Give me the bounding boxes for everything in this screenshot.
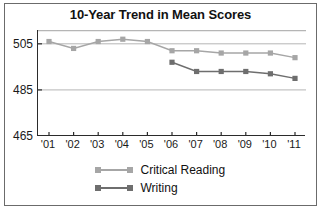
data-point-critical-reading xyxy=(46,39,51,44)
x-tick-label-11: '11 xyxy=(287,138,301,150)
x-tick-label-09: '09 xyxy=(238,138,252,150)
data-point-writing xyxy=(268,71,273,76)
x-tick-label-04: '04 xyxy=(115,138,129,150)
legend-item-writing: Writing xyxy=(95,181,227,195)
x-tick-label-03: '03 xyxy=(90,138,104,150)
data-point-writing xyxy=(169,60,174,65)
y-axis-tick-labels: 465485505 xyxy=(0,30,33,136)
x-tick-label-10: '10 xyxy=(262,138,276,150)
data-point-writing xyxy=(243,69,248,74)
y-tick-label-465: 465 xyxy=(13,129,33,143)
x-axis-tick-labels: '01'02'03'04'05'06'07'08'09'10'11 xyxy=(37,138,305,154)
data-point-critical-reading xyxy=(268,50,273,55)
y-tick-label-505: 505 xyxy=(13,37,33,51)
data-point-writing xyxy=(194,69,199,74)
data-point-critical-reading xyxy=(169,48,174,53)
data-point-critical-reading xyxy=(120,37,125,42)
data-point-critical-reading xyxy=(243,50,248,55)
data-point-critical-reading xyxy=(219,50,224,55)
legend-swatch-writing xyxy=(95,183,133,193)
data-point-critical-reading xyxy=(194,48,199,53)
y-tick-label-485: 485 xyxy=(13,83,33,97)
x-tick-label-06: '06 xyxy=(164,138,178,150)
x-tick-label-02: '02 xyxy=(65,138,79,150)
legend-swatch-critical-reading xyxy=(95,165,133,175)
x-tick-label-08: '08 xyxy=(213,138,227,150)
data-point-writing xyxy=(219,69,224,74)
legend-item-critical-reading: Critical Reading xyxy=(95,163,227,177)
x-tick-label-05: '05 xyxy=(139,138,153,150)
chart-title: 10-Year Trend in Mean Scores xyxy=(0,7,321,22)
plot-area xyxy=(37,30,305,136)
chart-legend: Critical Reading Writing xyxy=(0,163,321,195)
series-line-writing xyxy=(172,62,295,78)
data-point-writing xyxy=(292,76,297,81)
data-point-critical-reading xyxy=(145,39,150,44)
x-tick-label-01: '01 xyxy=(41,138,55,150)
data-point-critical-reading xyxy=(71,46,76,51)
legend-label-critical-reading: Critical Reading xyxy=(141,163,226,177)
chart-figure: 10-Year Trend in Mean Scores 465485505 '… xyxy=(0,0,321,209)
legend-label-writing: Writing xyxy=(141,181,178,195)
data-point-critical-reading xyxy=(292,55,297,60)
data-point-critical-reading xyxy=(96,39,101,44)
plot-svg xyxy=(38,30,306,136)
x-tick-label-07: '07 xyxy=(188,138,202,150)
